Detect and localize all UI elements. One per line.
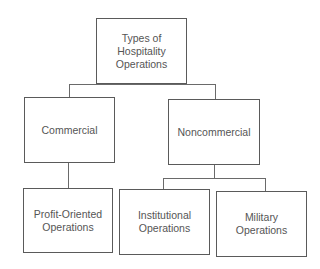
connector-noncommercial-down xyxy=(214,164,215,178)
node-commercial: Commercial xyxy=(24,97,115,163)
node-commercial-label: Commercial xyxy=(41,124,97,137)
node-military-label: Military Operations xyxy=(236,211,287,237)
node-institutional-label: Institutional Operations xyxy=(138,209,191,235)
connector-to-noncommercial xyxy=(215,84,216,99)
connector-root-horizontal xyxy=(69,84,216,85)
node-root: Types of Hospitality Operations xyxy=(96,18,187,84)
connector-to-military xyxy=(265,178,266,191)
node-military: Military Operations xyxy=(216,191,307,257)
node-noncommercial: Noncommercial xyxy=(168,99,260,165)
connector-commercial-to-profit xyxy=(68,162,69,188)
node-institutional: Institutional Operations xyxy=(119,189,210,255)
connector-to-commercial xyxy=(69,84,70,97)
node-profit-oriented: Profit-Oriented Operations xyxy=(23,188,113,253)
node-noncommercial-label: Noncommercial xyxy=(178,126,251,139)
connector-to-institutional xyxy=(163,178,164,189)
node-root-label: Types of Hospitality Operations xyxy=(116,32,167,71)
connector-noncommercial-horizontal xyxy=(163,178,266,179)
node-profit-oriented-label: Profit-Oriented Operations xyxy=(34,208,102,234)
